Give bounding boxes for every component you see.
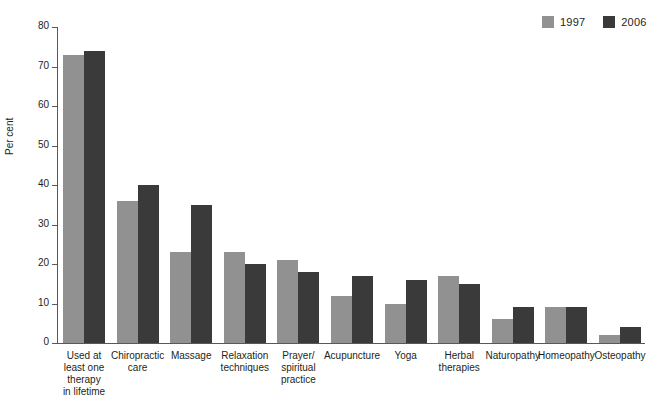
bar-1997	[599, 335, 620, 343]
y-tick-10: 10	[52, 304, 57, 305]
category-label-line: therapy	[44, 374, 124, 386]
bar-2006	[84, 51, 105, 343]
bar-2006	[513, 307, 534, 343]
bar-group	[117, 27, 159, 343]
bar-group	[438, 27, 480, 343]
bar-group	[224, 27, 266, 343]
category-label-line: care	[98, 362, 178, 374]
category-label-line: spiritual	[258, 362, 338, 374]
x-axis-line	[57, 343, 645, 344]
y-tick-50: 50	[52, 146, 57, 147]
category-label: Osteopathy	[580, 350, 660, 362]
bar-group	[331, 27, 373, 343]
bar-group	[63, 27, 105, 343]
y-axis-title: Per cent	[4, 85, 15, 155]
y-tick-label: 30	[38, 218, 49, 229]
bar-2006	[459, 284, 480, 343]
bar-chart: 19972006 Per cent 01020304050607080 Used…	[0, 0, 663, 409]
category-label-line: Osteopathy	[580, 350, 660, 362]
y-axis-line	[57, 27, 58, 344]
y-tick-label: 80	[38, 20, 49, 31]
bar-group	[277, 27, 319, 343]
y-tick-label: 40	[38, 178, 49, 189]
bar-1997	[170, 252, 191, 343]
legend-label: 2006	[621, 17, 646, 28]
y-tick-label: 10	[38, 297, 49, 308]
bar-group	[492, 27, 534, 343]
y-tick-label: 50	[38, 139, 49, 150]
bar-1997	[492, 319, 513, 343]
y-tick-40: 40	[52, 185, 57, 186]
category-label-line: therapies	[419, 362, 499, 374]
category-label-line: practice	[258, 374, 338, 386]
bar-2006	[566, 307, 587, 343]
bar-group	[170, 27, 212, 343]
bar-1997	[224, 252, 245, 343]
bar-group	[545, 27, 587, 343]
y-tick-label: 70	[38, 60, 49, 71]
bar-1997	[545, 307, 566, 343]
bar-group	[385, 27, 427, 343]
bar-2006	[245, 264, 266, 343]
y-tick-20: 20	[52, 264, 57, 265]
y-tick-label: 20	[38, 257, 49, 268]
y-tick-label: 60	[38, 99, 49, 110]
bar-2006	[298, 272, 319, 343]
category-label-line: in lifetime	[44, 386, 124, 398]
y-tick-70: 70	[52, 67, 57, 68]
y-tick-0: 0	[52, 343, 57, 344]
bar-2006	[620, 327, 641, 343]
bar-2006	[138, 185, 159, 343]
y-tick-60: 60	[52, 106, 57, 107]
y-tick-30: 30	[52, 225, 57, 226]
bar-group	[599, 27, 641, 343]
bar-1997	[438, 276, 459, 343]
bar-1997	[385, 304, 406, 344]
bar-2006	[191, 205, 212, 343]
y-tick-label: 0	[43, 336, 49, 347]
bar-2006	[406, 280, 427, 343]
plot-area: 01020304050607080	[57, 27, 645, 344]
y-tick-80: 80	[52, 27, 57, 28]
bar-1997	[117, 201, 138, 343]
legend-label: 1997	[560, 17, 585, 28]
bar-1997	[63, 55, 84, 343]
bar-1997	[277, 260, 298, 343]
bar-2006	[352, 276, 373, 343]
bar-1997	[331, 296, 352, 343]
